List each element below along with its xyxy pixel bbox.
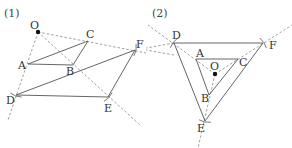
point-label-o: O [210, 60, 219, 73]
figure-1: OABCDEF(1) [4, 7, 146, 125]
dashed-ray [38, 32, 140, 125]
segment-EF [108, 50, 135, 97]
point-label-f: F [136, 38, 144, 51]
segment-BC [73, 41, 88, 65]
segment-DE [16, 95, 108, 97]
point-label-d: D [172, 29, 181, 42]
point-label-e: E [104, 102, 112, 115]
point-label-a: A [195, 47, 205, 60]
point-label-c: C [86, 28, 94, 41]
segment-FD [16, 50, 135, 95]
diagram-canvas: OABCDEF(1) OABCDEF(2) [0, 0, 292, 148]
figure-2: OABCDEF(2) [146, 7, 292, 148]
dashed-ray [146, 50, 174, 55]
dashed-ray [146, 43, 174, 48]
point-label-b: B [201, 92, 209, 105]
point-label-e: E [197, 122, 205, 135]
segment-CA [28, 41, 88, 64]
point-label-o: O [30, 19, 39, 32]
point-label-f: F [269, 39, 277, 52]
segment-EF [205, 43, 263, 121]
figure-label: (2) [152, 7, 168, 20]
figure-label: (1) [4, 7, 20, 20]
point-label-b: B [66, 65, 74, 78]
point-label-c: C [239, 56, 247, 69]
point-label-a: A [17, 59, 27, 72]
point-label-d: D [6, 94, 15, 107]
dashed-ray [148, 25, 215, 74]
dashed-ray [215, 25, 292, 74]
